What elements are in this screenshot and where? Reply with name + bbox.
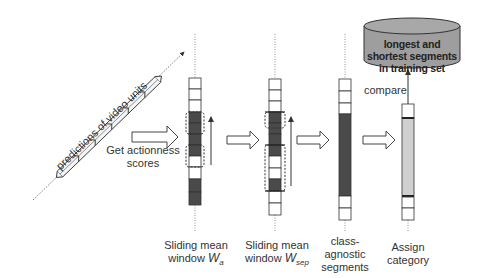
label-assign-line1: Assign [381,241,435,254]
label-wa-subscript: a [219,258,223,267]
column-class-agnostic [339,34,351,232]
database-label-line2: shortest segments [364,50,460,62]
arrow-to-segments [297,131,329,149]
label-class-agnostic-line3: segments [315,261,375,274]
label-wsep-symbol: W [285,251,296,265]
actionness-label: Get actionness scores [104,144,182,170]
label-class-agnostic-line1: class- [315,235,375,248]
label-class-agnostic: class- agnostic segments [315,235,375,274]
label-wsep-line2: window Wsep [236,252,318,269]
label-wsep-line1: Sliding mean [236,239,318,252]
arrow-to-assign [363,131,395,149]
column-wsep [265,34,291,232]
actionness-label-line2: scores [104,157,182,170]
label-assign-line2: category [381,254,435,267]
label-wsep-subscript: sep [296,258,309,267]
label-wsep: Sliding mean window Wsep [236,239,318,269]
column-wa [186,34,211,232]
label-wa-line2: window Wa [157,252,235,269]
database-label-line3: in training set [364,62,460,74]
label-assign: Assign category [381,241,435,267]
label-wa-window: window [168,252,205,264]
label-wa: Sliding mean window Wa [157,239,235,269]
compare-label: compare [364,84,408,97]
database-label-line1: longest and [364,38,460,50]
label-wa-symbol: W [208,251,219,265]
actionness-label-line1: Get actionness [104,144,182,157]
label-wa-line1: Sliding mean [157,239,235,252]
label-class-agnostic-line2: agnostic [315,248,375,261]
compare-label-text: compare [364,84,407,96]
arrow-to-wsep [227,131,259,149]
label-wsep-window: window [245,252,282,264]
database-label: longest and shortest segments in trainin… [364,38,460,74]
